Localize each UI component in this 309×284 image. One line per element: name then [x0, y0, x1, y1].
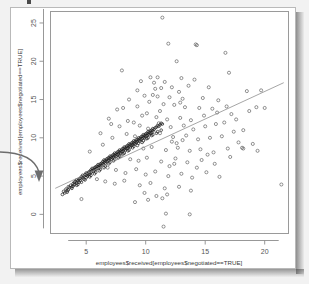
y-tick-label: 20: [30, 57, 37, 65]
y-axis-label: employees$received[employees$negotiated=…: [16, 48, 23, 195]
data-point: [224, 51, 227, 54]
plot-canvas: 5101520 0510152025 employees$received[em…: [0, 0, 309, 284]
data-point: [143, 191, 146, 194]
data-point: [237, 141, 240, 144]
data-point: [149, 181, 152, 184]
data-point: [123, 179, 126, 182]
data-point: [124, 171, 127, 174]
data-point: [99, 132, 102, 135]
data-point: [147, 127, 150, 130]
data-point: [193, 78, 196, 81]
data-point: [158, 109, 161, 112]
data-point: [149, 76, 152, 79]
data-point: [145, 112, 148, 115]
data-point: [155, 194, 158, 197]
y-tick-label: 10: [30, 134, 37, 142]
data-point: [280, 183, 283, 186]
data-point: [229, 155, 232, 158]
data-point: [163, 80, 166, 83]
data-point: [214, 122, 217, 125]
y-tick-label: 25: [30, 19, 37, 27]
data-point: [200, 158, 203, 161]
data-point: [223, 121, 226, 124]
data-point: [163, 187, 166, 190]
data-point: [161, 197, 164, 200]
data-point: [256, 149, 259, 152]
data-point: [88, 150, 91, 153]
data-point: [152, 81, 155, 84]
scatter-plot-figure: 5101520 0510152025 employees$received[em…: [0, 0, 309, 284]
data-point: [80, 198, 83, 201]
data-point: [175, 142, 178, 145]
data-point: [213, 162, 216, 165]
data-point: [180, 172, 183, 175]
data-point: [173, 103, 176, 106]
x-tick-label: 20: [261, 248, 269, 255]
data-point: [217, 99, 220, 102]
data-point: [101, 143, 104, 146]
data-point: [189, 189, 192, 192]
data-point: [179, 116, 182, 119]
data-point: [235, 118, 238, 121]
data-point: [143, 94, 146, 97]
data-point: [207, 86, 210, 89]
data-point: [180, 77, 183, 80]
data-point: [170, 140, 173, 143]
data-point: [181, 139, 184, 142]
data-point: [151, 93, 154, 96]
data-point: [164, 149, 167, 152]
data-point: [154, 170, 157, 173]
data-point: [111, 136, 114, 139]
data-point: [155, 116, 158, 119]
data-point: [147, 198, 150, 201]
data-point: [189, 119, 192, 122]
x-tick-label: 15: [201, 248, 209, 255]
data-point: [116, 108, 119, 111]
data-point: [199, 148, 202, 151]
data-point: [138, 184, 141, 187]
data-point: [168, 96, 171, 99]
x-axis-label: employees$received[employees$negotiated=…: [96, 259, 243, 266]
data-point: [263, 106, 266, 109]
data-point: [161, 16, 164, 19]
data-point: [226, 147, 229, 150]
x-tick-label: 10: [142, 248, 150, 255]
data-point: [232, 130, 235, 133]
data-point: [248, 109, 251, 112]
data-point: [110, 122, 113, 125]
data-point: [145, 156, 148, 159]
data-point: [174, 157, 177, 160]
data-point: [176, 146, 179, 149]
data-point: [148, 100, 151, 103]
data-point: [169, 126, 172, 129]
data-point: [132, 121, 135, 124]
data-point: [141, 114, 144, 117]
data-point: [188, 149, 191, 152]
data-point: [120, 69, 123, 72]
data-point: [167, 175, 170, 178]
data-points-layer: [61, 16, 283, 228]
data-point: [168, 165, 171, 168]
data-point: [185, 134, 188, 137]
data-point: [230, 113, 233, 116]
data-point: [191, 176, 194, 179]
data-point: [245, 90, 248, 93]
data-point: [133, 135, 136, 138]
data-point: [188, 213, 191, 216]
data-point: [114, 168, 117, 171]
data-point: [139, 80, 142, 83]
data-point: [208, 136, 211, 139]
data-point: [158, 132, 161, 135]
data-point: [179, 101, 182, 104]
data-point: [167, 42, 170, 45]
data-point: [260, 89, 263, 92]
data-point: [107, 117, 110, 120]
data-point: [122, 106, 125, 109]
data-point: [127, 98, 130, 101]
data-point: [206, 153, 209, 156]
data-point: [136, 105, 139, 108]
data-point: [177, 185, 180, 188]
data-point: [166, 118, 169, 121]
data-point: [125, 132, 128, 135]
data-point: [218, 175, 221, 178]
